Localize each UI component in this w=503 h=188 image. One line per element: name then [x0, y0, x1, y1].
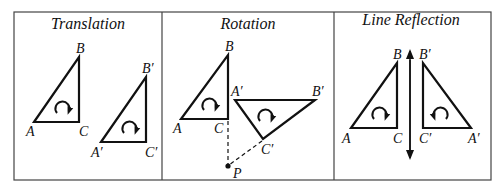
panel-title: Line Reflection	[361, 11, 459, 29]
vertex-label-b: B	[76, 41, 85, 56]
vertex-label-a-prime: A′	[230, 84, 244, 99]
rotation-center-point	[225, 163, 230, 168]
clockwise-arrow-icon	[202, 99, 216, 110]
dashed-line-c-prime-to-p	[229, 141, 262, 165]
vertex-label-c-prime: C′	[419, 131, 432, 146]
vertex-label-b: B	[393, 47, 402, 62]
vertex-label-c-prime: C′	[145, 145, 158, 160]
panel-line-reflection: Line Reflection A B C C′ B′ A′	[341, 11, 481, 158]
vertex-label-a-prime: A′	[467, 131, 481, 146]
panel-title: Translation	[51, 15, 125, 32]
vertex-label-c: C	[214, 121, 224, 136]
vertex-label-a: A	[341, 131, 351, 146]
vertex-label-b-prime: B′	[419, 47, 432, 62]
clockwise-arrow-icon	[122, 122, 136, 133]
vertex-label-b: B	[225, 39, 234, 54]
diagram-frame	[14, 12, 491, 180]
vertex-label-a: A	[25, 124, 35, 139]
triangle-a-prime-b-prime-c-prime	[235, 100, 315, 139]
transformations-diagram: Translation A B C A′ B′ C′ Rotation A B …	[0, 0, 503, 188]
vertex-label-c: C	[79, 124, 89, 139]
vertex-label-a-prime: A′	[90, 145, 104, 160]
panel-rotation: Rotation A B C A′ B′ C′ P	[172, 15, 325, 181]
vertex-label-c-prime: C′	[261, 142, 274, 157]
vertex-label-a: A	[172, 121, 182, 136]
counterclockwise-arrow-icon	[434, 108, 448, 119]
vertex-label-c: C	[393, 131, 403, 146]
point-label-p: P	[232, 166, 242, 181]
vertex-label-b-prime: B′	[142, 61, 155, 76]
clockwise-arrow-icon	[55, 102, 69, 113]
vertex-label-b-prime: B′	[312, 84, 325, 99]
panel-title: Rotation	[219, 15, 275, 32]
clockwise-arrow-icon	[258, 110, 272, 121]
clockwise-arrow-icon	[372, 108, 386, 119]
panel-translation: Translation A B C A′ B′ C′	[25, 15, 158, 160]
